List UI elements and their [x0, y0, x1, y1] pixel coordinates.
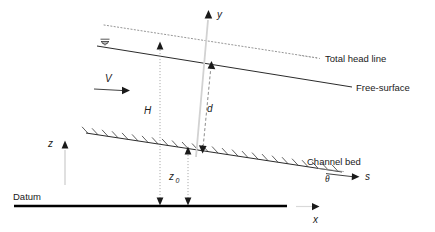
label-datum: Datum [13, 191, 41, 202]
label-s-axis: s [365, 171, 370, 182]
label-flow-depth: d [207, 103, 213, 114]
s-axis-line [326, 174, 352, 177]
velocity-arrowhead [122, 87, 130, 95]
figure-canvas: Total head line Free-surface Channel bed… [0, 0, 435, 232]
label-total-head-line: Total head line [325, 53, 386, 64]
label-total-head: H [144, 105, 152, 116]
channel-bed-line [86, 133, 342, 172]
s-axis-arrowhead [352, 173, 360, 180]
total-head-line [104, 25, 318, 58]
label-y-axis: y [216, 9, 223, 20]
label-bed-elevation: z [168, 171, 174, 182]
z-axis-group [62, 141, 69, 186]
d-dimension-arrow-bottom [199, 145, 207, 153]
label-channel-bed: Channel bed [307, 156, 361, 167]
water-level-symbol [101, 39, 110, 45]
label-free-surface: Free-surface [356, 82, 410, 93]
total-head-line-group [104, 25, 318, 58]
velocity-arrow-group [94, 87, 130, 95]
theta-reference-line [318, 168, 344, 171]
velocity-arrow-line [94, 89, 122, 91]
label-x-axis: x [312, 214, 319, 225]
x-axis-arrowhead [312, 203, 320, 210]
z0-dimension-arrow-bottom [185, 198, 192, 206]
channel-bed-group [82, 127, 342, 172]
h-dimension-group [157, 42, 164, 206]
h-dimension-arrow-top [157, 42, 164, 50]
label-velocity: V [105, 73, 113, 84]
h-dimension-arrow-bottom [157, 198, 164, 206]
channel-bed-hatching [82, 127, 338, 172]
y-axis-arrowhead [205, 10, 213, 19]
z0-dimension-group [185, 147, 192, 206]
x-axis-group [296, 203, 320, 210]
z-axis-arrowhead [62, 141, 69, 149]
label-bed-elevation-subscript: 0 [176, 177, 180, 184]
open-channel-flow-diagram: Total head line Free-surface Channel bed… [0, 0, 435, 232]
label-bed-elevation-group: z 0 [168, 171, 180, 184]
free-surface-group [97, 39, 352, 87]
label-z-axis: z [47, 138, 53, 149]
free-surface-line [97, 46, 352, 87]
label-bed-slope-angle: θ [325, 174, 330, 184]
